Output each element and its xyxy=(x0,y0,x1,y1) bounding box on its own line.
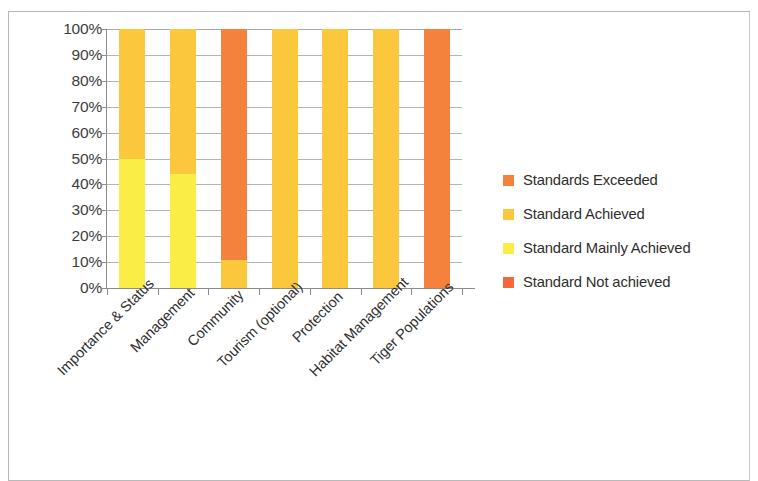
bar-segment[interactable] xyxy=(221,260,247,288)
legend-swatch-icon xyxy=(503,175,514,186)
bar-segment[interactable] xyxy=(119,159,145,289)
y-axis-tick-20pct: 20% xyxy=(44,228,102,243)
y-tick-mark-40 xyxy=(101,184,107,185)
y-tick-mark-100 xyxy=(101,29,107,30)
x-axis-category-labels: Importance & StatusManagementCommunityTo… xyxy=(107,292,527,442)
bar-segment[interactable] xyxy=(221,29,247,260)
y-tick-mark-10 xyxy=(101,262,107,263)
y-tick-mark-60 xyxy=(101,133,107,134)
y-axis-tick-50pct: 50% xyxy=(44,151,102,166)
bars-layer xyxy=(107,29,462,288)
bar-segment[interactable] xyxy=(119,29,145,159)
y-tick-mark-70 xyxy=(101,107,107,108)
bar-column[interactable] xyxy=(119,29,145,288)
bar-segment[interactable] xyxy=(170,29,196,174)
y-axis-tick-labels: 0%10%20%30%40%50%60%70%80%90%100% xyxy=(44,22,102,288)
bar-segment[interactable] xyxy=(424,29,450,288)
bar-segment[interactable] xyxy=(373,29,399,288)
x-axis-label-tourism-optional: Tourism (optional) xyxy=(214,279,306,371)
y-tick-mark-50 xyxy=(101,159,107,160)
bar-column[interactable] xyxy=(373,29,399,288)
legend-item-label: Standard Not achieved xyxy=(523,274,670,290)
y-axis-tick-80pct: 80% xyxy=(44,73,102,88)
legend-swatch-icon xyxy=(503,243,514,254)
y-tick-mark-30 xyxy=(101,210,107,211)
y-axis-tick-90pct: 90% xyxy=(44,47,102,62)
bar-column[interactable] xyxy=(424,29,450,288)
legend-swatch-icon xyxy=(503,277,514,288)
legend-item[interactable]: Standard Not achieved xyxy=(503,265,751,299)
legend-swatch-icon xyxy=(503,209,514,220)
legend-item-label: Standard Mainly Achieved xyxy=(523,240,691,256)
legend-item-label: Standards Exceeded xyxy=(523,172,658,188)
legend-item[interactable]: Standard Mainly Achieved xyxy=(503,231,751,265)
y-tick-mark-20 xyxy=(101,236,107,237)
legend-item-label: Standard Achieved xyxy=(523,206,645,222)
bar-segment[interactable] xyxy=(322,29,348,288)
y-axis-tick-60pct: 60% xyxy=(44,125,102,140)
legend-item[interactable]: Standard Achieved xyxy=(503,197,751,231)
y-tick-mark-90 xyxy=(101,55,107,56)
y-axis-tick-100pct: 100% xyxy=(44,21,102,36)
chart-legend: Standards ExceededStandard AchievedStand… xyxy=(503,163,751,299)
y-axis-tick-30pct: 30% xyxy=(44,202,102,217)
bar-column[interactable] xyxy=(221,29,247,288)
bar-column[interactable] xyxy=(322,29,348,288)
bar-column[interactable] xyxy=(272,29,298,288)
y-axis-tick-0pct: 0% xyxy=(44,280,102,295)
bar-column[interactable] xyxy=(170,29,196,288)
y-axis-tick-40pct: 40% xyxy=(44,176,102,191)
y-axis-tick-10pct: 10% xyxy=(44,254,102,269)
legend-item[interactable]: Standards Exceeded xyxy=(503,163,751,197)
plot-area xyxy=(107,29,462,288)
bar-segment[interactable] xyxy=(272,29,298,288)
y-tick-mark-80 xyxy=(101,81,107,82)
bar-segment[interactable] xyxy=(170,174,196,288)
y-axis-tick-70pct: 70% xyxy=(44,99,102,114)
